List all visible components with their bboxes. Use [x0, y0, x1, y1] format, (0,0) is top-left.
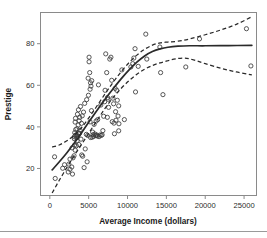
data-point	[81, 154, 85, 158]
prestige-income-scatter-figure: 0500010000150002000025000 20406080 Avera…	[0, 0, 267, 238]
data-point	[79, 137, 83, 141]
y-tick-label-60: 60	[26, 81, 34, 90]
x-axis-tickmarks	[50, 196, 244, 200]
data-point	[88, 70, 92, 74]
data-point	[244, 27, 248, 31]
data-point	[117, 104, 121, 108]
x-tick-label-20000: 20000	[195, 201, 216, 210]
data-point	[116, 114, 120, 118]
data-point	[197, 37, 201, 41]
data-point	[184, 65, 188, 69]
x-axis-title: Average Income (dollars)	[99, 217, 197, 226]
data-point	[62, 163, 66, 167]
scatter-points	[52, 27, 253, 181]
data-point	[161, 93, 165, 97]
data-point	[144, 32, 148, 36]
y-axis-title: Prestige	[4, 87, 13, 120]
chart-canvas: 0500010000150002000025000 20406080 Avera…	[0, 0, 267, 238]
data-point	[115, 98, 119, 102]
data-point	[111, 102, 115, 106]
data-point	[101, 129, 105, 133]
y-tick-label-40: 40	[26, 123, 34, 132]
data-point	[110, 78, 114, 82]
y-axis-tickmarks	[37, 44, 41, 169]
x-tick-label-15000: 15000	[156, 201, 177, 210]
data-point	[249, 64, 253, 68]
data-point	[85, 98, 89, 102]
data-point	[53, 176, 57, 180]
footer-divider	[0, 231, 267, 232]
data-point	[83, 147, 87, 151]
data-point	[159, 70, 163, 74]
y-axis-tick-labels: 20406080	[26, 39, 34, 173]
data-point	[133, 47, 137, 51]
data-point	[81, 110, 85, 114]
y-tick-label-20: 20	[26, 164, 34, 173]
x-tick-label-10000: 10000	[117, 201, 138, 210]
data-point	[113, 110, 117, 114]
x-tick-label-0: 0	[48, 201, 52, 210]
x-tick-label-25000: 25000	[234, 201, 255, 210]
data-point	[122, 117, 126, 121]
data-point	[78, 104, 82, 108]
data-point	[117, 129, 121, 133]
plot-frame	[41, 13, 257, 196]
data-point	[136, 64, 140, 68]
upper-confidence-band	[52, 17, 252, 147]
data-point	[117, 122, 121, 126]
data-point	[105, 70, 109, 74]
data-point	[87, 60, 91, 64]
data-point	[133, 90, 137, 94]
data-point	[106, 105, 110, 109]
data-point	[52, 155, 56, 159]
data-point	[87, 55, 91, 59]
x-tick-label-5000: 5000	[80, 201, 97, 210]
data-point	[70, 172, 74, 176]
data-point	[85, 160, 89, 164]
data-point	[112, 132, 116, 136]
x-axis-tick-labels: 0500010000150002000025000	[48, 201, 255, 210]
data-point	[86, 93, 90, 97]
data-point	[82, 166, 86, 170]
data-point	[145, 57, 149, 61]
data-point	[96, 83, 100, 87]
y-tick-label-80: 80	[26, 39, 34, 48]
data-point	[104, 52, 108, 56]
